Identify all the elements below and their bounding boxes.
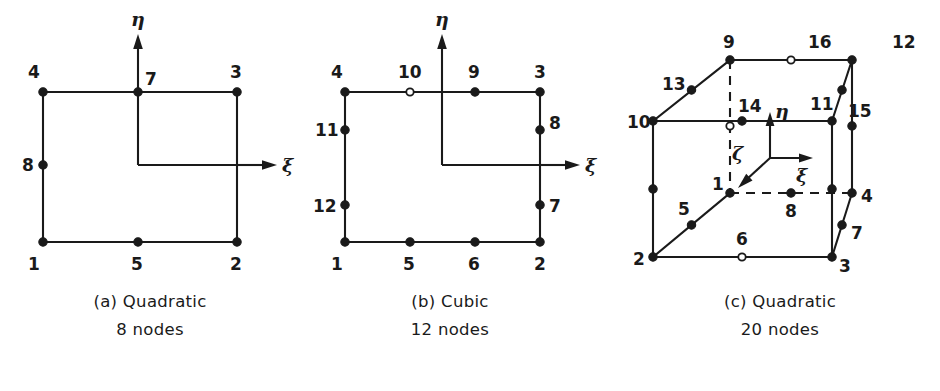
axis-xi-arrowhead-c: [799, 154, 813, 163]
node-marker-5-a: [134, 238, 142, 246]
node-label-8-c: 8: [785, 201, 797, 221]
node-label-11-b: 11: [315, 120, 339, 140]
node-label-9-b: 9: [468, 62, 480, 82]
node-label-4-b: 4: [331, 62, 343, 82]
node-marker-8-c: [787, 189, 795, 197]
axis-xi-arrowhead-a: [262, 160, 277, 170]
caption-a-line2: 8 nodes: [0, 320, 300, 339]
panel-quadratic-8-nodes: η ξ 1 2 3 4 5 7 8: [0, 0, 300, 290]
caption-panel-a: (a) Quadratic 8 nodes: [0, 292, 300, 339]
node-label-10-b: 10: [398, 62, 422, 82]
node-label-1-b: 1: [331, 254, 343, 274]
node-marker-vertical-back-left-mid-c: [726, 122, 733, 129]
axis-cross-a: [138, 92, 237, 165]
node-label-10-c: 10: [627, 112, 651, 132]
node-marker-4-a: [39, 88, 47, 96]
node-label-12-b: 12: [313, 196, 337, 216]
node-marker-8-b: [536, 126, 544, 134]
axis-xi-label-b: ξ: [585, 154, 598, 176]
node-marker-vertical-front-right-mid-c: [828, 185, 836, 193]
node-label-5-b: 5: [403, 254, 415, 274]
cube-back-face-c: [730, 60, 852, 193]
node-label-8-b: 8: [549, 113, 561, 133]
node-label-16-c: 16: [808, 32, 832, 52]
axis-eta-arrowhead-b: [437, 34, 447, 49]
axis-eta-arrowhead-c: [766, 112, 775, 126]
node-marker-11-c: [828, 117, 836, 125]
node-marker-10-b: [406, 88, 413, 95]
caption-panel-c: (c) Quadratic 20 nodes: [620, 292, 940, 339]
node-label-5-c: 5: [678, 199, 690, 219]
node-label-7-b: 7: [549, 196, 561, 216]
node-marker-9-c: [726, 56, 734, 64]
node-marker-1-a: [39, 238, 47, 246]
node-label-3-c: 3: [839, 256, 851, 276]
axis-xi-a: ξ: [237, 154, 295, 176]
node-label-4-a: 4: [28, 62, 40, 82]
node-marker-12-c: [848, 56, 856, 64]
axis-eta-b: η: [435, 8, 449, 92]
node-label-7-a: 7: [145, 69, 157, 89]
node-marker-11-b: [341, 126, 349, 134]
node-marker-1-b: [341, 238, 349, 246]
element-outline-a: [43, 92, 237, 242]
node-marker-7-b: [536, 201, 544, 209]
node-marker-9-b: [471, 88, 479, 96]
node-marker-14-c: [738, 117, 746, 125]
node-marker-6-c: [738, 253, 745, 260]
caption-panel-b: (b) Cubic 12 nodes: [300, 292, 600, 339]
node-label-13-c: 13: [662, 74, 686, 94]
node-marker-vertical-front-left-mid-c: [649, 185, 657, 193]
node-label-11-c: 11: [810, 94, 834, 114]
node-marker-3-a: [233, 88, 241, 96]
axis-zeta-line-c: [746, 158, 770, 180]
node-label-12-c: 12: [892, 32, 916, 52]
node-labels-c: 1 2 3 4 5 6 7 8 9 10 11 12 13 14 15 16: [627, 32, 916, 276]
nodes-a: [39, 88, 241, 246]
node-marker-4-b: [341, 88, 349, 96]
node-label-9-c: 9: [723, 32, 735, 52]
node-marker-6-b: [471, 238, 479, 246]
axis-xi-arrowhead-b: [565, 160, 580, 170]
node-label-2-b: 2: [534, 254, 546, 274]
caption-c-line2: 20 nodes: [620, 320, 940, 339]
axis-eta-label-c: η: [775, 100, 789, 122]
panel-quadratic-20-nodes: η ξ ζ: [620, 0, 940, 290]
node-marker-3-c: [828, 253, 836, 261]
node-marker-13-c: [687, 86, 695, 94]
node-marker-15-c: [838, 86, 846, 94]
caption-c-line1: (c) Quadratic: [724, 292, 836, 311]
node-label-3-a: 3: [230, 62, 242, 82]
caption-b-line2: 12 nodes: [300, 320, 600, 339]
node-label-8-a: 8: [22, 155, 34, 175]
axis-xi-label-a: ξ: [282, 154, 295, 176]
axis-xi-label-c: ξ: [796, 164, 809, 186]
node-label-4-c: 4: [861, 186, 873, 206]
caption-b-line1: (b) Cubic: [411, 292, 488, 311]
axis-eta-label-a: η: [131, 8, 145, 30]
caption-a-line1: (a) Quadratic: [93, 292, 206, 311]
axis-eta-arrowhead-a: [133, 34, 143, 49]
axis-cross-b: [442, 92, 540, 165]
node-marker-2-a: [233, 238, 241, 246]
node-marker-7-a: [134, 88, 142, 96]
node-marker-12-b: [341, 201, 349, 209]
node-label-6-b: 6: [468, 254, 480, 274]
node-marker-2-b: [536, 238, 544, 246]
node-marker-5-c: [687, 221, 695, 229]
node-label-6-c: 6: [736, 229, 748, 249]
node-label-2-a: 2: [230, 254, 242, 274]
node-marker-8-a: [39, 161, 47, 169]
node-marker-vertical-back-right-mid-c: [848, 122, 856, 130]
node-marker-2-c: [649, 253, 657, 261]
node-label-15-c: 15: [848, 101, 872, 121]
node-marker-5-b: [406, 238, 414, 246]
node-marker-4-c: [848, 189, 856, 197]
node-label-2-c: 2: [633, 249, 645, 269]
node-label-7-c: 7: [851, 223, 863, 243]
node-label-14-c: 14: [738, 96, 762, 116]
node-label-1-c: 1: [712, 174, 724, 194]
node-label-5-a: 5: [131, 254, 143, 274]
node-marker-7-c: [838, 221, 846, 229]
axis-eta-label-b: η: [435, 8, 449, 30]
